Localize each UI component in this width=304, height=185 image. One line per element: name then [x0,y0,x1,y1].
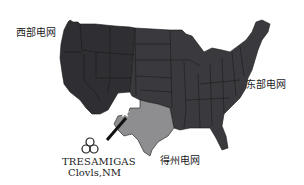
us-grid-map: 西部电网 东部电网 得州电网 TRESAMIGAS Clovls,NM [0,0,304,185]
company-location: Clovls,NM [68,167,121,178]
label-western-grid: 西部电网 [16,24,56,39]
region-western [60,20,135,114]
label-eastern-grid: 东部电网 [246,76,286,91]
company-name: TRESAMIGAS [62,156,136,167]
company-logo-icon [80,136,100,156]
label-texas-grid: 得州电网 [160,152,200,167]
region-texas [114,100,174,156]
